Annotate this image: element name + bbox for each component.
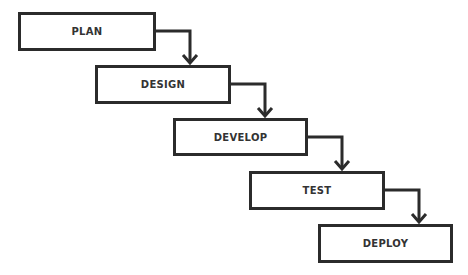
connector-develop-test [307, 137, 349, 169]
stage-develop: DEVELOP [173, 118, 308, 156]
stage-label: PLAN [71, 26, 102, 37]
stage-label: DEPLOY [363, 238, 409, 249]
stage-label: DESIGN [141, 79, 185, 90]
stage-plan: PLAN [18, 12, 156, 51]
connector-design-develop [230, 84, 272, 116]
stage-design: DESIGN [95, 65, 231, 104]
connector-test-deploy [384, 190, 426, 222]
waterfall-diagram: PLAN DESIGN DEVELOP TEST DEPLOY [0, 0, 468, 275]
stage-deploy: DEPLOY [318, 224, 453, 263]
stage-label: TEST [303, 185, 332, 196]
connector-plan-design [155, 31, 197, 63]
stage-test: TEST [249, 171, 385, 210]
stage-label: DEVELOP [214, 132, 268, 143]
